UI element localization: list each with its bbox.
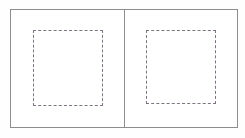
right-dashed-region[interactable] bbox=[146, 30, 216, 104]
canvas bbox=[0, 0, 245, 138]
right-panel[interactable] bbox=[125, 10, 238, 127]
left-panel[interactable] bbox=[11, 10, 125, 127]
outer-border bbox=[10, 9, 238, 128]
left-dashed-region[interactable] bbox=[33, 30, 103, 106]
